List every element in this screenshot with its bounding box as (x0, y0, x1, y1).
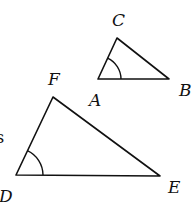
triangle-def-outline (16, 97, 160, 176)
vertex-label-b: B (178, 80, 192, 100)
vertex-label-f: F (47, 69, 61, 89)
vertex-label-e: E (167, 177, 181, 197)
diagram-canvas: C A B F D E s (0, 0, 196, 205)
angle-d-arc-icon (27, 151, 43, 175)
vertex-label-d: D (0, 186, 13, 205)
cropped-text-fragment: s (0, 128, 4, 147)
vertex-label-c: C (112, 10, 125, 30)
triangle-abc (98, 38, 169, 79)
vertex-label-a: A (87, 90, 101, 110)
triangle-def (16, 97, 160, 176)
angle-a-arc-icon (108, 58, 122, 79)
